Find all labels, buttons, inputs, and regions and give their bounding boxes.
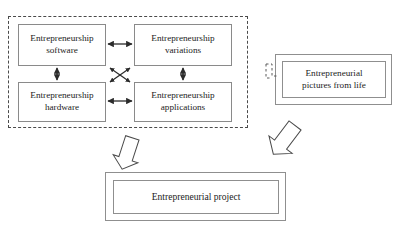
block-arrow-cluster-to-project [110,134,145,173]
box-entrepreneurship-software: Entrepreneurship software [18,24,106,66]
box-entrepreneurial-pictures-from-life: Entrepreneurial pictures from life [282,61,386,98]
box-label-variations: Entrepreneurship variations [151,33,214,57]
box-entrepreneurship-variations: Entrepreneurship variations [134,24,232,66]
box-entrepreneurial-project: Entrepreneurial project [113,180,279,214]
box-label-pictures-from-life: Entrepreneurial pictures from life [302,68,366,92]
box-label-software: Entrepreneurship software [30,33,93,57]
box-entrepreneurship-hardware: Entrepreneurship hardware [18,82,106,122]
block-arrow-pictures-to-project [262,117,307,163]
box-label-hardware: Entrepreneurship hardware [30,90,93,114]
box-label-entrepreneurial-project: Entrepreneurial project [152,191,241,203]
diagram-canvas: Entrepreneurship software Entrepreneursh… [0,0,401,238]
dashed-connector-marker-tail [266,64,272,78]
box-label-applications: Entrepreneurship applications [151,90,214,114]
box-entrepreneurship-applications: Entrepreneurship applications [134,82,232,122]
